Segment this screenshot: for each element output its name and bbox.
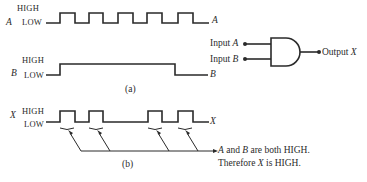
waveform-x-trace	[46, 111, 209, 122]
diagram-canvas	[0, 0, 367, 182]
annotation-arrowhead	[213, 149, 218, 153]
and-gate	[246, 38, 318, 66]
input-a-terminal	[243, 42, 247, 46]
annotation-arrows	[60, 128, 215, 151]
input-b-terminal	[243, 57, 247, 61]
waveform-a-trace	[46, 13, 209, 23]
waveform-b-trace	[46, 64, 208, 75]
output-x-terminal	[317, 50, 321, 54]
